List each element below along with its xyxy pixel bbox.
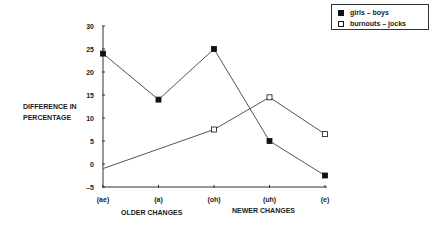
x-tick-label: (oh) bbox=[207, 196, 220, 204]
y-tick-label: 20 bbox=[86, 69, 94, 76]
open-square-marker bbox=[212, 127, 217, 132]
y-tick-label: 15 bbox=[86, 92, 94, 99]
y-tick-label: 25 bbox=[86, 46, 94, 53]
x-tick-label: (ae) bbox=[97, 196, 109, 204]
x-tick-label: (e) bbox=[321, 196, 330, 204]
open-square-marker bbox=[323, 132, 328, 137]
filled-square-marker bbox=[323, 173, 328, 178]
y-tick-label: 10 bbox=[86, 115, 94, 122]
series-line-burnouts-jocks bbox=[103, 97, 325, 168]
y-tick-label: 5 bbox=[90, 138, 94, 145]
filled-square-marker bbox=[101, 51, 106, 56]
y-axis-label-line1: DIFFERENCE IN bbox=[23, 103, 77, 110]
x-group-label-older: OLDER CHANGES bbox=[121, 209, 183, 216]
x-group-label-newer: NEWER CHANGES bbox=[232, 207, 295, 214]
filled-square-marker bbox=[156, 97, 161, 102]
y-tick-label: 0 bbox=[90, 161, 94, 168]
filled-square-icon bbox=[338, 10, 344, 16]
legend-item-burnouts-jocks: burnouts – jocks bbox=[338, 20, 406, 27]
open-square-icon bbox=[338, 21, 344, 27]
filled-square-marker bbox=[267, 139, 272, 144]
y-axis-label-line2: PERCENTAGE bbox=[23, 114, 71, 121]
filled-square-marker bbox=[212, 47, 217, 52]
legend-label: burnouts – jocks bbox=[350, 20, 406, 27]
line-chart: 302520151050–5(ae)(a)(oh)(uh)(e)OLDER CH… bbox=[0, 0, 435, 226]
legend-item-girls-boys: girls – boys bbox=[338, 9, 389, 16]
x-tick-label: (a) bbox=[154, 196, 163, 204]
x-tick-label: (uh) bbox=[263, 196, 276, 204]
legend-label: girls – boys bbox=[350, 9, 389, 16]
y-tick-label: 30 bbox=[86, 23, 94, 30]
open-square-marker bbox=[267, 95, 272, 100]
legend: girls – boys burnouts – jocks bbox=[331, 4, 429, 30]
y-tick-label: –5 bbox=[86, 184, 94, 191]
